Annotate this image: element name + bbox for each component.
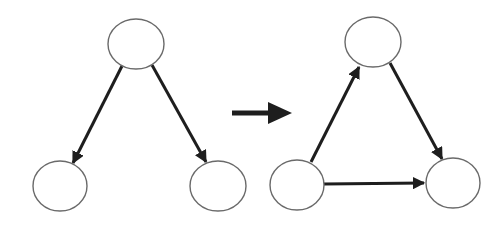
edge-after-b-to-c (324, 183, 424, 184)
edge-before-a-to-b (73, 66, 122, 163)
node-after-b (270, 160, 324, 210)
node-after-a (345, 17, 401, 67)
node-before-c (190, 161, 246, 211)
diagram-canvas (0, 0, 503, 226)
edge-after-a-to-c (390, 63, 442, 159)
graph-before (33, 19, 246, 211)
right-arrow-icon (232, 102, 292, 124)
edge-after-b-to-a (311, 67, 359, 162)
node-before-b (33, 161, 87, 211)
node-after-c (426, 158, 480, 208)
node-before-a (108, 19, 164, 69)
graph-after (270, 17, 480, 210)
edge-before-a-to-c (152, 65, 206, 162)
